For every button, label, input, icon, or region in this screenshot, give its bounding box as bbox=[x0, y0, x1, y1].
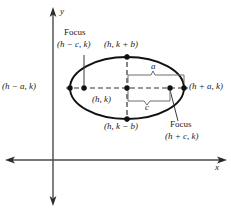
vertex-left-point bbox=[67, 85, 72, 90]
focus-right-point bbox=[167, 85, 172, 90]
vertex-right-point bbox=[181, 85, 186, 90]
brace-c-group bbox=[128, 91, 170, 105]
focus-left-point-label: (h − c, k) bbox=[57, 40, 91, 49]
focus-right-word-label: Focus bbox=[170, 120, 192, 129]
vertex-left-label: (h − a, k) bbox=[2, 82, 36, 91]
brace-a-path bbox=[128, 75, 184, 83]
focus-left-point bbox=[81, 85, 86, 90]
covertex-bottom-label: (h, k − b) bbox=[104, 122, 138, 131]
leader-line-focus-right bbox=[170, 90, 178, 121]
diagram-canvas bbox=[0, 0, 231, 215]
ellipse-diagram: Focus (h − c, k) (h, k + b) (h − a, k) (… bbox=[0, 0, 231, 215]
center-point bbox=[124, 85, 129, 90]
covertex-top-label: (h, k + b) bbox=[104, 40, 138, 49]
vertex-right-label: (h + a, k) bbox=[189, 82, 223, 91]
focus-left-word-label: Focus bbox=[64, 28, 86, 37]
x-axis-label: x bbox=[215, 163, 219, 172]
y-axis-label: y bbox=[60, 7, 64, 16]
semi-major-length-label: a bbox=[151, 62, 156, 71]
brace-a-tick bbox=[151, 71, 155, 75]
covertex-top-point bbox=[124, 54, 129, 59]
focus-right-point-label: (h + c, k) bbox=[165, 132, 199, 141]
axes-group bbox=[5, 7, 227, 206]
brace-c-path bbox=[128, 91, 170, 101]
center-label: (h, k) bbox=[92, 95, 111, 104]
semi-focal-length-label: c bbox=[145, 103, 149, 112]
